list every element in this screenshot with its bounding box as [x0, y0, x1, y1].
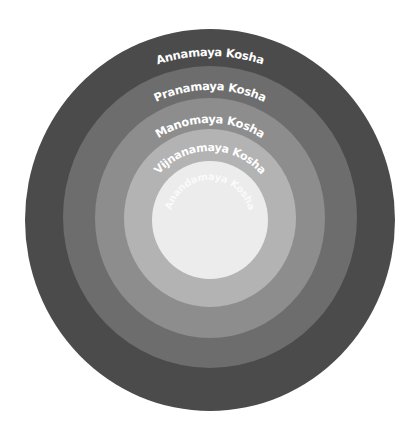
- kosha-diagram: Annamaya Kosha Pranamaya Kosha Manomaya …: [0, 0, 420, 435]
